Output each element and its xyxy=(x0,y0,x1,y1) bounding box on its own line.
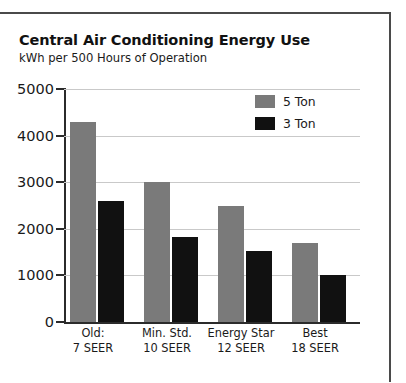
y-axis-tick-mark xyxy=(56,321,64,323)
legend-swatch-icon xyxy=(255,117,275,130)
bar-3-ton-group-1 xyxy=(98,201,124,322)
legend-label: 5 Ton xyxy=(283,94,316,109)
legend-item-3-ton: 3 Ton xyxy=(255,114,365,133)
legend-label: 3 Ton xyxy=(283,116,316,131)
y-axis-tick-mark xyxy=(56,88,64,90)
chart-legend: 5 Ton3 Ton xyxy=(255,92,365,136)
gridline xyxy=(64,182,360,183)
x-axis-group-label: Old:7 SEER xyxy=(56,326,130,356)
y-axis-tick-label: 5000 xyxy=(4,81,54,97)
bar-5-ton-group-3 xyxy=(218,206,244,323)
x-axis-label-line-1: Best xyxy=(278,326,352,341)
y-axis-tick-label: 3000 xyxy=(4,174,54,190)
legend-swatch-icon xyxy=(255,95,275,108)
chart-title: Central Air Conditioning Energy Use xyxy=(19,32,310,48)
x-axis-label-line-2: 12 SEER xyxy=(204,341,278,356)
bar-3-ton-group-2 xyxy=(172,237,198,322)
bar-5-ton-group-2 xyxy=(144,182,170,322)
x-axis-label-line-2: 18 SEER xyxy=(278,341,352,356)
bar-3-ton-group-3 xyxy=(246,251,272,322)
y-axis-tick-label: 0 xyxy=(4,314,54,330)
x-axis-label-line-1: Old: xyxy=(56,326,130,341)
bar-5-ton-group-4 xyxy=(292,243,318,322)
y-axis-tick-mark xyxy=(56,181,64,183)
x-axis-label-line-1: Energy Star xyxy=(204,326,278,341)
y-axis-tick-mark xyxy=(56,274,64,276)
y-axis-tick-mark xyxy=(56,228,64,230)
chart-figure: Central Air Conditioning Energy Use kWh … xyxy=(0,12,391,382)
y-axis-tick-mark xyxy=(56,135,64,137)
x-axis-label-line-2: 7 SEER xyxy=(56,341,130,356)
x-axis-label-line-2: 10 SEER xyxy=(130,341,204,356)
x-axis-group-label: Energy Star12 SEER xyxy=(204,326,278,356)
bar-3-ton-group-4 xyxy=(320,275,346,322)
y-axis-tick-label: 4000 xyxy=(4,128,54,144)
x-axis-label-line-1: Min. Std. xyxy=(130,326,204,341)
legend-item-5-ton: 5 Ton xyxy=(255,92,365,111)
x-axis-labels: Old:7 SEERMin. Std.10 SEEREnergy Star12 … xyxy=(64,326,360,370)
bar-5-ton-group-1 xyxy=(70,122,96,322)
x-axis-line xyxy=(64,322,360,324)
x-axis-group-label: Best18 SEER xyxy=(278,326,352,356)
x-axis-group-label: Min. Std.10 SEER xyxy=(130,326,204,356)
y-axis-tick-label: 1000 xyxy=(4,267,54,283)
y-axis-tick-label: 2000 xyxy=(4,221,54,237)
gridline xyxy=(64,89,360,90)
y-axis-labels: 010002000300040005000 xyxy=(0,14,54,383)
